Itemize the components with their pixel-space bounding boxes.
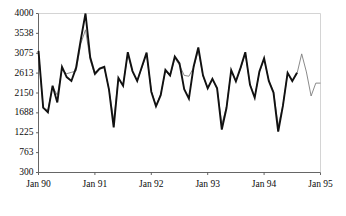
y-axis-tick-label: 763 <box>0 147 34 157</box>
y-axis-tick-label: 2150 <box>0 88 34 98</box>
series-line-actual <box>39 14 298 132</box>
y-axis-tick-label: 2613 <box>0 68 34 78</box>
x-axis-tick-label: Jan 94 <box>234 179 294 189</box>
y-axis-tick-label: 1225 <box>0 127 34 137</box>
y-axis-tick-label: 3075 <box>0 48 34 58</box>
x-axis-tick-label: Jan 95 <box>291 179 346 189</box>
y-axis-tick-label: 4000 <box>0 8 34 18</box>
time-series-chart: 3007631225168821502613307535384000Jan 90… <box>0 0 346 216</box>
x-axis-tick-label: Jan 90 <box>9 179 69 189</box>
y-axis-tick-label: 3538 <box>0 28 34 38</box>
x-axis-tick-label: Jan 93 <box>178 179 238 189</box>
y-axis-tick-label: 1688 <box>0 107 34 117</box>
x-axis-tick-label: Jan 92 <box>121 179 181 189</box>
x-axis-tick-label: Jan 91 <box>65 179 125 189</box>
y-axis-tick-label: 300 <box>0 167 34 177</box>
